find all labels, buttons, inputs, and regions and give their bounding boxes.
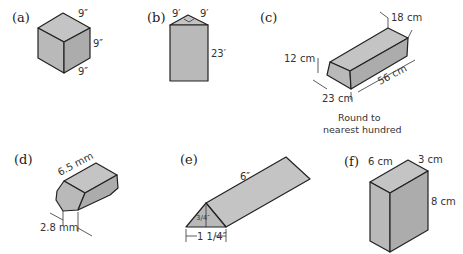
figure-b-prism: (b) 9′ 9′ 23′ [147, 8, 227, 81]
figure-f-label: (f) [344, 154, 359, 169]
prism-b-front [170, 25, 208, 81]
cube-dim-bottom: 9″ [78, 66, 88, 77]
prism-b-dim-height: 23′ [211, 48, 227, 59]
box-dim-depth: 3 cm [418, 154, 443, 165]
tri-prism-dim-length: 6″ [240, 171, 250, 182]
cube-dim-right: 9″ [93, 38, 103, 49]
box-dim-height: 8 cm [431, 196, 456, 207]
tri-prism-side [206, 157, 310, 227]
prism-c-note-line2: nearest hundred [323, 124, 402, 135]
figure-b-label: (b) [147, 10, 165, 25]
figure-d-hexagonal-prism: (d) 6.5 mm 2.8 mm [14, 150, 118, 236]
figure-a-label: (a) [12, 10, 30, 25]
figure-e-label: (e) [180, 152, 198, 167]
figure-f-box: (f) 6 cm 3 cm 8 cm [344, 154, 456, 252]
figure-d-label: (d) [14, 152, 32, 167]
prism-b-dim-right: 9′ [200, 8, 209, 19]
figure-a-cube: (a) 9″ 9″ 9″ [12, 8, 103, 77]
box-dim-width: 6 cm [368, 156, 393, 167]
prism-c-dim-bottom: 23 cm [322, 93, 353, 104]
solid-figures-diagram: (a) 9″ 9″ 9″ (b) 9′ 9′ 23′ (c) 18 cm 12 … [0, 0, 463, 254]
prism-c-dim-top: 18 cm [391, 12, 422, 23]
figure-c-trapezoidal-prism: (c) 18 cm 12 cm 23 cm 56 cm Round to nea… [260, 10, 422, 135]
box-front [370, 182, 390, 252]
prism-c-dim-height: 12 cm [284, 53, 315, 64]
tri-prism-dim-base: 1 1/4″ [197, 231, 227, 242]
tri-prism-dim-height: 3/4″ [196, 214, 210, 222]
prism-c-note-line1: Round to [338, 112, 381, 123]
prism-b-dim-left: 9′ [172, 8, 181, 19]
figure-e-triangular-prism: (e) 6″ 3/4″ 1 1/4″ [180, 152, 310, 242]
hex-dim-side: 2.8 mm [40, 222, 79, 233]
figure-c-label: (c) [260, 10, 277, 25]
cube-dim-top: 9″ [78, 8, 88, 19]
